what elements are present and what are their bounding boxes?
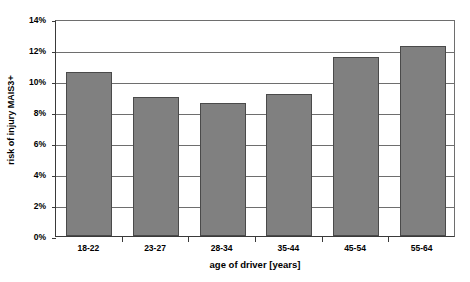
bar — [266, 94, 312, 236]
y-axis-tick-label: 6% — [34, 139, 46, 149]
y-axis-tick-label: 14% — [29, 15, 46, 25]
bar — [200, 103, 246, 236]
plot-area — [55, 20, 455, 237]
y-axis-tick-label: 12% — [29, 46, 46, 56]
x-axis-title: age of driver [years] — [55, 259, 455, 270]
x-axis-tick-label: 18-22 — [77, 243, 99, 253]
bar — [400, 46, 446, 236]
x-axis-tick-mark — [388, 237, 389, 242]
x-axis-tick-label: 45-54 — [344, 243, 366, 253]
y-axis-tick-label: 8% — [34, 108, 46, 118]
x-axis-tick-label: 35-44 — [277, 243, 299, 253]
bar — [66, 72, 112, 236]
y-axis-tick-label: 0% — [34, 232, 46, 242]
y-axis-tick-label: 2% — [34, 201, 46, 211]
x-axis-tick-mark — [255, 237, 256, 242]
bar-chart: risk of injury MAIS3+ 0%2%4%6%8%10%12%14… — [0, 0, 470, 282]
y-axis-tick-label: 4% — [34, 170, 46, 180]
x-axis-tick-label: 55-64 — [411, 243, 433, 253]
bar — [333, 57, 379, 236]
y-axis-title-label: risk of injury MAIS3+ — [6, 75, 16, 164]
x-axis-tick-mark — [122, 237, 123, 242]
x-axis-tick-label: 28-34 — [211, 243, 233, 253]
x-axis-tick-mark — [322, 237, 323, 242]
y-axis-tick-label: 10% — [29, 77, 46, 87]
x-axis-tick-labels: 18-2223-2728-3435-4445-5455-64 — [55, 243, 455, 257]
bars-group — [56, 21, 454, 236]
x-axis-tick-label: 23-27 — [144, 243, 166, 253]
y-axis-title: risk of injury MAIS3+ — [0, 0, 22, 240]
bar — [133, 97, 179, 236]
x-axis-tick-mark — [188, 237, 189, 242]
y-axis-tick-labels: 0%2%4%6%8%10%12%14% — [20, 20, 50, 237]
